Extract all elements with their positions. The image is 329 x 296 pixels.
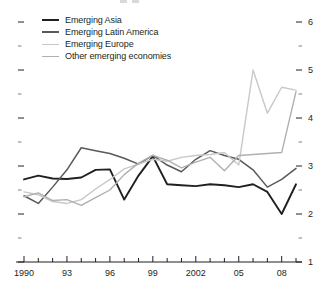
legend-swatch-other-emerging-economies <box>42 56 59 57</box>
chart-container: Emerging Asia Emerging Latin America Eme… <box>0 0 329 296</box>
series-line-emerging-europe <box>24 70 296 203</box>
legend-item-emerging-asia: Emerging Asia <box>42 14 242 26</box>
series-line-emerging-latin-america <box>24 148 296 204</box>
legend-item-other-emerging-economies: Other emerging economies <box>42 50 242 62</box>
y-axis-tick-label: 3 <box>308 162 313 171</box>
x-axis-tick-label: 2002 <box>186 269 206 278</box>
series-line-emerging-asia <box>24 156 296 214</box>
x-axis-tick-label: 99 <box>148 269 158 278</box>
x-axis-tick-label: 08 <box>277 269 287 278</box>
legend-item-emerging-europe: Emerging Europe <box>42 38 242 50</box>
y-axis-tick-label: 5 <box>308 66 313 75</box>
y-axis-tick-label: 4 <box>308 114 313 123</box>
legend-swatch-emerging-asia <box>42 19 59 21</box>
y-axis-tick-label: 6 <box>308 18 313 27</box>
y-axis-tick-label: 2 <box>308 210 313 219</box>
legend-label-emerging-europe: Emerging Europe <box>65 39 134 49</box>
legend-item-emerging-latin-america: Emerging Latin America <box>42 26 242 38</box>
x-axis-tick-label: 05 <box>234 269 244 278</box>
legend-swatch-emerging-latin-america <box>42 31 59 33</box>
legend-swatch-emerging-europe <box>42 44 59 45</box>
x-axis-tick-label: 1990 <box>14 269 34 278</box>
legend-label-emerging-latin-america: Emerging Latin America <box>65 27 158 37</box>
x-axis-tick-label: 93 <box>62 269 72 278</box>
x-axis-tick-label: 96 <box>105 269 115 278</box>
legend-label-emerging-asia: Emerging Asia <box>65 15 122 25</box>
legend-label-other-emerging-economies: Other emerging economies <box>65 51 171 61</box>
y-axis-tick-label: 1 <box>308 258 313 267</box>
chart-legend: Emerging Asia Emerging Latin America Eme… <box>42 14 242 62</box>
series-line-other-emerging-economies <box>24 92 296 206</box>
